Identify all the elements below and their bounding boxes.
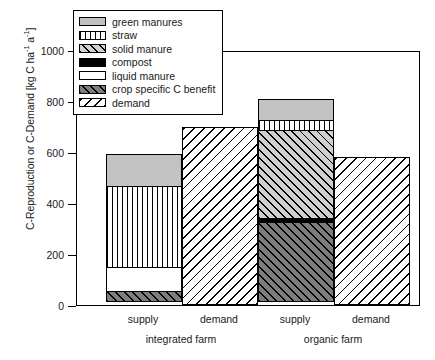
legend-label-demand: demand (112, 98, 150, 109)
legend-item-compost: compost (79, 56, 215, 70)
legend-label-straw: straw (112, 30, 137, 41)
y-tick-mark-600 (68, 153, 76, 154)
y-axis-title: C-Reproduction or C-Demand [kg C ha-1 a-… (22, 4, 36, 254)
bar-integrated-supply[interactable] (106, 154, 182, 305)
legend-item-solid-manure: solid manure (79, 42, 215, 56)
x-tick-label-organic-demand: demand (333, 313, 409, 325)
segment-straw (106, 186, 182, 268)
y-axis-title-sup1: -1 (22, 45, 31, 51)
legend-swatch-crop-specific-c-benefit-icon (79, 85, 106, 94)
segment-solid-manure (258, 130, 334, 219)
segment-green-manures (106, 154, 182, 187)
x-group-label-organic-farm: organic farm (257, 333, 409, 345)
y-tick-mark-400 (68, 204, 76, 205)
segment-crop-specific-c-benefit (258, 222, 334, 302)
y-tick-label-600: 600 (46, 148, 64, 159)
segment-crop-specific-c-benefit (106, 291, 182, 302)
bar-organic-supply[interactable] (258, 99, 334, 305)
x-tick-label-organic-supply: supply (257, 313, 333, 325)
y-tick-label-1000: 1000 (41, 46, 64, 57)
segment-demand (334, 157, 410, 305)
legend-item-straw: straw (79, 29, 215, 43)
x-tick-label-integrated-demand: demand (181, 313, 257, 325)
x-tick-label-integrated-supply: supply (105, 313, 181, 325)
y-tick-label-800: 800 (46, 97, 64, 108)
segment-liquid-manure (106, 267, 182, 292)
legend-label-green-manures: green manures (112, 17, 183, 28)
y-tick-label-0: 0 (58, 301, 64, 312)
legend-item-liquid-manure: liquid manure (79, 69, 215, 83)
legend-label-compost: compost (112, 57, 152, 68)
y-tick-mark-200 (68, 255, 76, 256)
y-tick-label-400: 400 (46, 199, 64, 210)
legend-swatch-green-manures-icon (79, 17, 106, 26)
legend-swatch-straw-icon (79, 31, 106, 40)
chart-legend: green manures straw solid manure compost… (73, 10, 223, 115)
segment-green-manures (258, 99, 334, 121)
y-axis-title-mid: a (24, 37, 36, 46)
chart-figure: C-Reproduction or C-Demand [kg C ha-1 a-… (0, 0, 435, 360)
y-tick-mark-0 (68, 306, 76, 307)
bar-organic-demand[interactable] (334, 157, 410, 305)
y-tick-label-200: 200 (46, 250, 64, 261)
legend-swatch-solid-manure-icon (79, 44, 106, 53)
legend-item-demand: demand (79, 96, 215, 110)
segment-demand (182, 127, 258, 305)
legend-label-solid-manure: solid manure (112, 44, 172, 55)
legend-swatch-demand-icon (79, 98, 106, 107)
y-axis-title-sup2: -1 (22, 30, 31, 36)
legend-label-crop-specific-c-benefit: crop specific C benefit (112, 84, 215, 95)
y-axis-title-main: C-Reproduction or C-Demand [kg C ha (24, 52, 36, 230)
legend-item-green-manures: green manures (79, 15, 215, 29)
legend-swatch-liquid-manure-icon (79, 71, 106, 80)
bar-integrated-demand[interactable] (182, 127, 258, 305)
x-group-label-integrated-farm: integrated farm (105, 333, 257, 345)
y-axis-title-end: ] (24, 28, 36, 31)
legend-item-crop-specific-c-benefit: crop specific C benefit (79, 83, 215, 97)
legend-swatch-compost-icon (79, 58, 106, 67)
legend-label-liquid-manure: liquid manure (112, 71, 175, 82)
